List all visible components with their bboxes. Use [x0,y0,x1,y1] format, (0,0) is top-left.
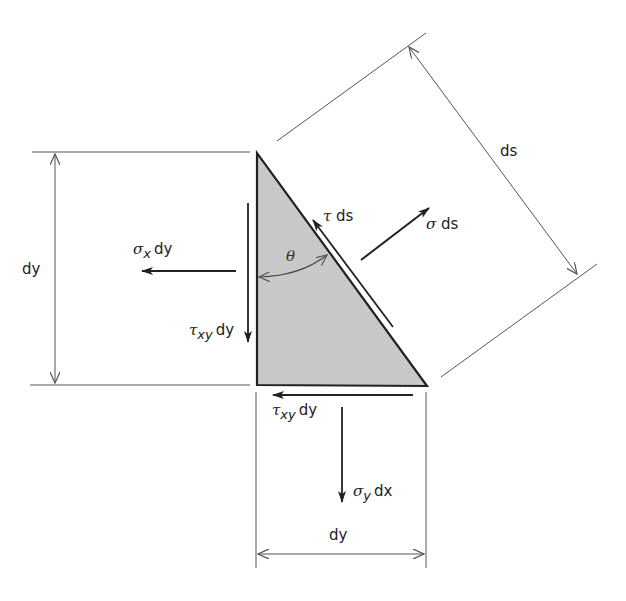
tau-symbol: τ [323,207,331,225]
tau-xy-horizontal-label: τxydy [272,403,317,418]
differential: ds [336,207,353,225]
theta-label: θ [286,249,295,264]
differential: dy [299,401,317,419]
sigma-normal-arrow [361,208,429,260]
dimension-text: ds [500,142,517,160]
sigma-normal-label: σ ds [426,217,458,232]
differential: dy [154,240,172,258]
bottom-dimension-label: dy [329,528,347,543]
stress-wedge-diagram [0,0,626,601]
tau-shear-label: τ ds [323,209,353,224]
sigma-symbol: σ [426,215,436,233]
left-dimension-label: dy [22,262,40,277]
tau-xy-vertical-label: τxydy [189,323,234,338]
dimension-text: dy [22,260,40,278]
theta-symbol: θ [286,247,295,265]
wedge-element [257,153,427,386]
subscript: xy [280,407,295,422]
sigma-symbol: σ [353,482,363,500]
subscript: x [143,246,151,261]
subscript: y [363,488,371,503]
differential: dx [374,482,392,500]
differential: ds [441,215,458,233]
left-dimension [30,152,250,385]
differential: dy [216,321,234,339]
sigma-symbol: σ [133,240,143,258]
sigma-y-label: σydx [353,484,392,499]
subscript: xy [197,327,212,342]
hypotenuse-dimension-label: ds [500,144,517,159]
sigma-x-label: σxdy [133,242,172,257]
dimension-text: dy [329,526,347,544]
